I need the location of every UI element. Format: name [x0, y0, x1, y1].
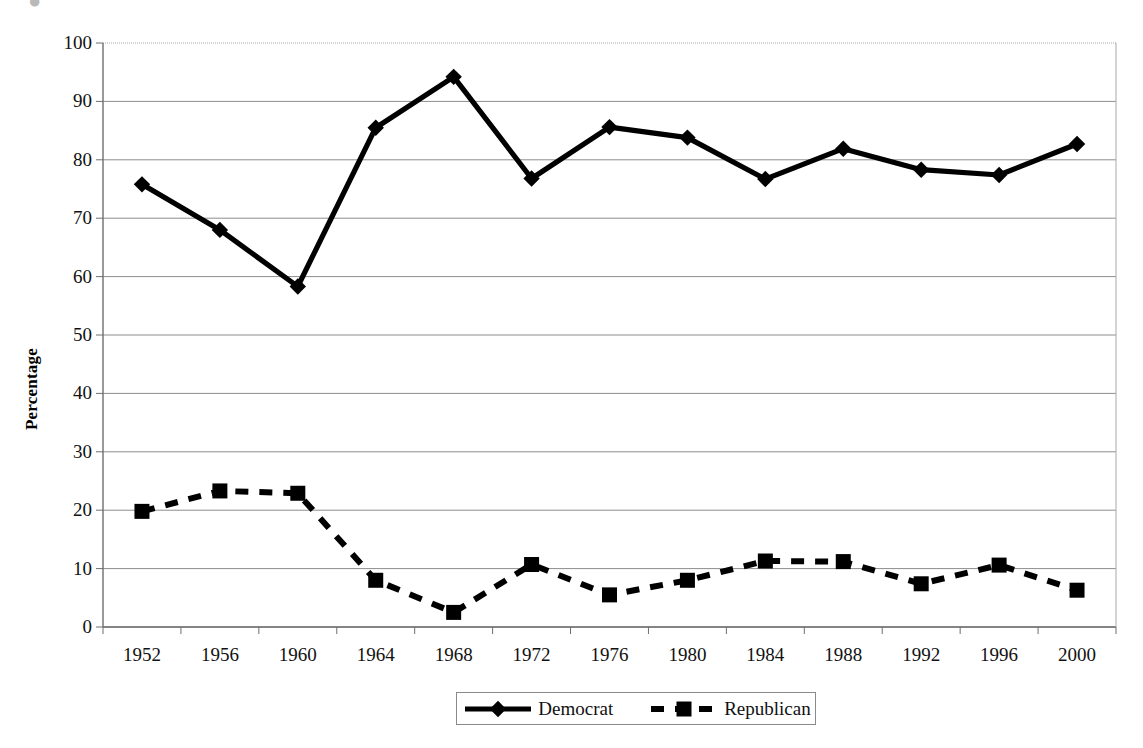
x-axis-ticks-group: [103, 627, 1116, 634]
legend-label-republican: Republican: [721, 698, 811, 720]
y-tick-label-50: 50: [40, 325, 92, 344]
legend-entry-republican: Republican: [647, 693, 811, 724]
marker-republican-1976: [602, 587, 617, 602]
x-tick-label-1952: 1952: [103, 645, 181, 664]
series-republican: [134, 483, 1084, 619]
marker-republican-1972: [524, 557, 539, 572]
x-tick-label-1976: 1976: [571, 645, 649, 664]
x-tick-label-1972: 1972: [493, 645, 571, 664]
marker-republican-1984: [758, 554, 773, 569]
marker-democrat-2000: [1069, 136, 1085, 152]
marker-republican-2000: [1070, 583, 1085, 598]
series-democrat: [134, 69, 1085, 295]
x-tick-label-1956: 1956: [181, 645, 259, 664]
marker-republican-1996: [992, 558, 1007, 573]
marker-republican-1964: [368, 573, 383, 588]
dashed-line-square-marker-icon: [647, 698, 721, 720]
y-tick-label-60: 60: [40, 267, 92, 286]
marker-democrat-1988: [835, 141, 851, 157]
x-tick-label-1996: 1996: [960, 645, 1038, 664]
x-tick-label-1988: 1988: [804, 645, 882, 664]
y-tick-label-30: 30: [40, 442, 92, 461]
solid-line-diamond-marker-icon: [461, 698, 535, 720]
y-tick-label-80: 80: [40, 150, 92, 169]
marker-republican-1952: [134, 504, 149, 519]
y-axis-ticks-group: [96, 43, 103, 627]
marker-republican-1968: [446, 605, 461, 620]
chart-legend: DemocratRepublican: [456, 692, 816, 725]
x-tick-label-1980: 1980: [648, 645, 726, 664]
y-tick-label-0: 0: [40, 617, 92, 636]
x-tick-label-1992: 1992: [882, 645, 960, 664]
x-tick-label-1964: 1964: [337, 645, 415, 664]
series-line-democrat: [142, 77, 1077, 287]
y-tick-label-10: 10: [40, 559, 92, 578]
x-tick-label-1968: 1968: [415, 645, 493, 664]
y-tick-label-100: 100: [40, 33, 92, 52]
marker-republican-1956: [212, 483, 227, 498]
legend-entry-democrat: Democrat: [461, 693, 613, 724]
marker-republican-1960: [290, 486, 305, 501]
y-tick-label-90: 90: [40, 91, 92, 110]
legend-label-democrat: Democrat: [535, 698, 613, 720]
y-tick-label-70: 70: [40, 208, 92, 227]
x-tick-label-1960: 1960: [259, 645, 337, 664]
x-tick-label-1984: 1984: [726, 645, 804, 664]
marker-republican-1980: [680, 573, 695, 588]
x-tick-label-2000: 2000: [1038, 645, 1116, 664]
y-tick-label-20: 20: [40, 500, 92, 519]
marker-democrat-1996: [991, 167, 1007, 183]
marker-republican-1988: [836, 554, 851, 569]
marker-republican-1992: [914, 576, 929, 591]
chart-plot-area: [0, 0, 1143, 748]
y-tick-label-40: 40: [40, 383, 92, 402]
marker-democrat-1992: [913, 162, 929, 178]
chart-page: ● Percentage 0102030405060708090100 1952…: [0, 0, 1143, 748]
